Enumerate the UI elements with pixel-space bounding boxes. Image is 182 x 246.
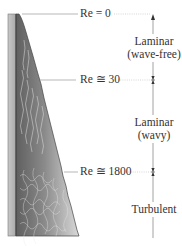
regime-line-1: Turbulent	[127, 203, 181, 216]
re-label-1800: Re ≅ 1800	[80, 166, 132, 178]
regime-line-2: (wavy)	[127, 129, 181, 142]
vertical-plate	[8, 14, 16, 236]
re-label-30: Re ≅ 30	[80, 74, 120, 86]
regime-line-1: Laminar	[127, 116, 181, 129]
regime-turbulent: Turbulent	[127, 202, 181, 217]
arrow-up-icon	[151, 14, 155, 20]
re-label-0: Re = 0	[80, 8, 111, 20]
regime-line-2: (wave-free)	[127, 48, 181, 61]
double-arrow-tick-icon	[151, 168, 155, 176]
double-arrow-tick-icon	[151, 76, 155, 84]
regime-laminar-wave-free: Laminar (wave-free)	[127, 34, 181, 62]
liquid-film	[16, 14, 79, 246]
regime-line-1: Laminar	[127, 35, 181, 48]
regime-laminar-wavy: Laminar (wavy)	[127, 115, 181, 143]
